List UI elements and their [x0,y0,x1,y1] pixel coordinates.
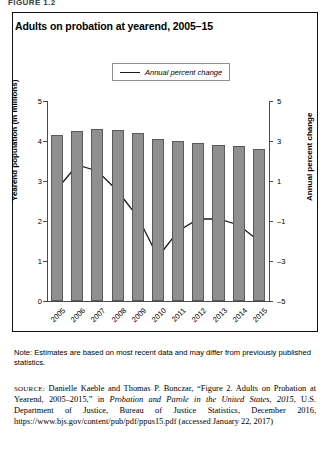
right-tick-label-–3: –3 [277,257,285,266]
figure-container: FIGURE 1.2 Adults on probation at yearen… [0,0,332,459]
left-tick-label-5: 5 [38,97,42,106]
left-tick-label-2: 2 [38,217,42,226]
right-tick [269,101,273,102]
bar-2011 [172,141,184,301]
chart-legend: Annual percent change [112,63,230,81]
bar-2006 [71,131,83,301]
legend-label: Annual percent change [145,68,222,77]
plot-area: 543210531–1–3–52005200620072008200920102… [47,101,269,301]
right-axis-line [269,101,270,301]
bar-2009 [132,133,144,301]
bar-2012 [192,143,204,301]
right-tick [269,301,273,302]
right-tick [269,181,273,182]
bar-2010 [152,139,164,301]
bar-2008 [112,130,124,301]
left-tick [43,141,47,142]
right-tick-label-–5: –5 [277,297,285,306]
right-tick-label-1: 1 [277,177,281,186]
bottom-axis-line [47,301,269,302]
right-tick [269,261,273,262]
left-axis-title: Yearend population (in millions) [10,80,19,201]
left-tick [43,181,47,182]
bar-2007 [91,129,103,301]
right-tick-label-5: 5 [277,97,281,106]
left-tick [43,301,47,302]
right-tick [269,141,273,142]
left-tick [43,101,47,102]
left-tick-label-0: 0 [38,297,42,306]
bar-2013 [212,145,224,301]
source-italic-title: Probation and Parole in the United State… [110,395,294,404]
chart-title: Adults on probation at yearend, 2005–15 [15,20,213,32]
line-swatch-icon [120,72,140,73]
left-tick [43,261,47,262]
bar-2015 [253,149,265,301]
chart-note: Note: Estimates are based on most recent… [14,348,314,368]
right-tick-label-3: 3 [277,137,281,146]
chart-source: SOURCE: Danielle Kaeble and Thomas P. Bo… [14,384,316,428]
left-tick [43,221,47,222]
left-tick-label-1: 1 [38,257,42,266]
source-prefix: SOURCE: [14,385,45,393]
right-axis-title: Annual percent change [305,113,314,201]
right-tick [269,221,273,222]
bar-2005 [51,135,63,301]
left-tick-label-3: 3 [38,177,42,186]
bar-2014 [233,146,245,301]
figure-label: FIGURE 1.2 [8,0,56,7]
left-tick-label-4: 4 [38,137,42,146]
right-tick-label-–1: –1 [277,217,285,226]
